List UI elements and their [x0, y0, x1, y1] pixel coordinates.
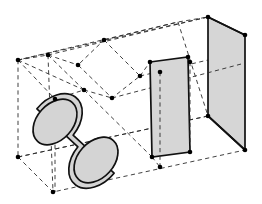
back-plate — [208, 17, 245, 150]
construction-line-c — [48, 55, 78, 65]
vertex-dot — [188, 150, 193, 155]
vertex-dot — [46, 53, 51, 58]
construction-line-d — [18, 60, 55, 99]
cylinder — [24, 91, 127, 192]
vertex-dot — [138, 74, 143, 79]
rhombus-edges — [78, 40, 140, 98]
vertex-dot — [243, 33, 248, 38]
vertex-dot — [110, 96, 115, 101]
vertex-dot — [188, 60, 193, 65]
vertex-dot — [158, 70, 163, 75]
vertex-dot — [206, 114, 211, 119]
vertex-dot — [53, 97, 58, 102]
back-plate-face — [208, 17, 245, 150]
vertex-dot — [243, 148, 248, 153]
rhombus-panel-outline — [78, 40, 140, 98]
vertex-dot — [51, 190, 56, 195]
vertex-dot — [186, 55, 191, 60]
vertex-dot — [158, 165, 163, 170]
front-plate — [150, 57, 190, 157]
technical-figure: 3D wireframe technical illustration Isom… — [0, 0, 262, 204]
construction-line-a — [18, 60, 84, 90]
construction-line-g — [104, 22, 178, 40]
construction-line-b — [48, 55, 84, 90]
vertex-dot — [102, 38, 107, 43]
vertex-dot — [16, 155, 21, 160]
vertex-dot — [148, 60, 153, 65]
vertex-dot — [206, 15, 211, 20]
vertex-dot — [82, 88, 87, 93]
vertex-dot — [76, 63, 81, 68]
vertex-dot — [16, 58, 21, 63]
vertex-dot — [150, 155, 155, 160]
front-plate-face — [150, 57, 190, 157]
